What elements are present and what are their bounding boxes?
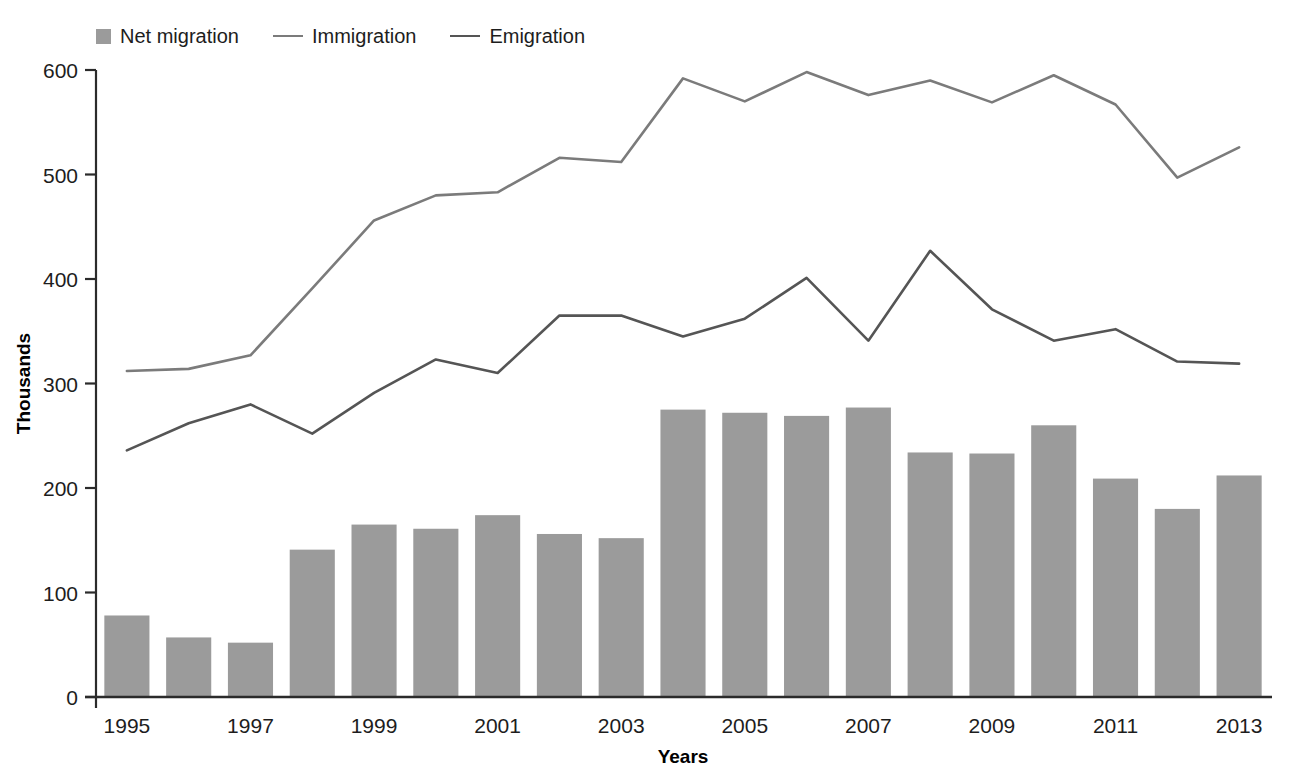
bar-net-migration [228, 643, 273, 697]
x-axis-tick-label: 2001 [474, 714, 521, 737]
y-axis-tick-label: 500 [43, 164, 78, 187]
y-axis-tick-label: 100 [43, 582, 78, 605]
x-axis-tick-label: 2013 [1216, 714, 1263, 737]
plot-area: 0100200300400500600199519971999200120032… [0, 0, 1300, 772]
bar-net-migration [599, 538, 644, 697]
bar-net-migration [722, 413, 767, 697]
bar-net-migration [1031, 425, 1076, 697]
bar-net-migration [1217, 475, 1262, 697]
bar-net-migration [537, 534, 582, 697]
bar-net-migration [104, 615, 149, 697]
y-axis-tick-label: 300 [43, 373, 78, 396]
bar-net-migration [908, 452, 953, 697]
bar-net-migration [784, 416, 829, 697]
bar-net-migration [413, 529, 458, 697]
migration-chart: Net migration Immigration Emigration 010… [0, 0, 1300, 772]
x-axis-tick-label: 2007 [845, 714, 892, 737]
y-axis-tick-label: 400 [43, 268, 78, 291]
x-axis-tick-label: 2011 [1093, 714, 1138, 737]
bar-net-migration [846, 408, 891, 697]
y-axis-tick-label: 0 [66, 686, 78, 709]
bar-net-migration [660, 410, 705, 697]
bar-net-migration [351, 525, 396, 697]
x-axis-tick-label: 2005 [721, 714, 768, 737]
y-axis-tick-label: 200 [43, 477, 78, 500]
x-axis-tick-label: 1995 [104, 714, 151, 737]
x-axis-tick-label: 1997 [227, 714, 274, 737]
bar-net-migration [969, 454, 1014, 697]
bar-net-migration [475, 515, 520, 697]
x-axis-tick-label: 2003 [598, 714, 645, 737]
bar-net-migration [1155, 509, 1200, 697]
y-axis-title: Thousands [13, 333, 34, 434]
y-axis-tick-label: 600 [43, 59, 78, 82]
line-immigration [127, 72, 1239, 371]
bar-net-migration [1093, 479, 1138, 697]
x-axis-tick-label: 2009 [969, 714, 1016, 737]
bar-net-migration [290, 550, 335, 697]
x-axis-tick-label: 1999 [351, 714, 398, 737]
bar-net-migration [166, 637, 211, 697]
x-axis-title: Years [658, 746, 709, 767]
